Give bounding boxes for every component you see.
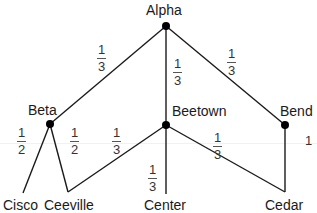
weight-denominator: 3 [214, 149, 221, 161]
node-beetown-dot [162, 121, 170, 129]
node-alpha-dot [162, 22, 170, 30]
node-label-ceeville: Ceeville [44, 198, 94, 212]
weight-numerator: 1 [214, 132, 221, 144]
weight-numerator: 1 [149, 164, 156, 176]
node-bend-dot [281, 121, 289, 129]
weight-alpha-beetown: 1 3 [173, 58, 182, 87]
node-label-center: Center [144, 198, 186, 212]
edge-beetown-cedar [166, 125, 285, 192]
edge-beta-ceeville [50, 124, 68, 192]
weight-numerator: 1 [228, 48, 235, 60]
node-label-alpha: Alpha [146, 3, 182, 17]
node-label-beetown: Beetown [172, 104, 226, 118]
node-label-cedar: Cedar [265, 198, 303, 212]
weight-beta-ceeville: 1 2 [70, 127, 79, 156]
weight-denominator: 3 [228, 65, 235, 77]
weight-numerator: 1 [18, 127, 25, 139]
node-label-beta: Beta [28, 103, 57, 117]
weight-beetown-center: 1 3 [148, 164, 157, 193]
weight-denominator: 2 [18, 144, 25, 156]
weight-denominator: 3 [98, 61, 105, 73]
weight-numerator: 1 [98, 44, 105, 56]
node-beta-dot [46, 120, 54, 128]
weight-denominator: 2 [71, 144, 78, 156]
weight-alpha-beta: 1 3 [97, 44, 106, 73]
weight-beta-cisco: 1 2 [17, 127, 26, 156]
weight-bend-cedar: 1 [305, 134, 312, 147]
weight-denominator: 3 [174, 75, 181, 87]
weight-beetown-cedar: 1 3 [213, 132, 222, 161]
weight-denominator: 3 [113, 144, 120, 156]
weight-beetown-ceeville: 1 3 [112, 127, 121, 156]
weight-denominator: 3 [149, 181, 156, 193]
edge-beta-cisco [23, 124, 50, 193]
weight-numerator: 1 [113, 127, 120, 139]
weight-numerator: 1 [174, 58, 181, 70]
node-label-cisco: Cisco [3, 198, 38, 212]
weight-numerator: 1 [71, 127, 78, 139]
node-label-bend: Bend [280, 104, 313, 118]
edge-alpha-beta [50, 26, 166, 124]
weight-alpha-bend: 1 3 [227, 48, 236, 77]
